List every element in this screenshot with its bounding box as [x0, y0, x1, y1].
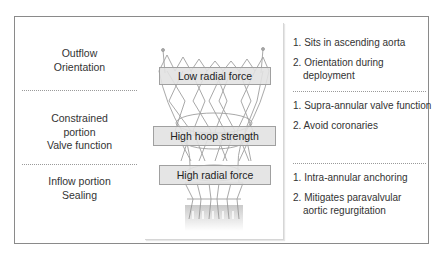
region-inflow-line1: Inflow portion	[22, 175, 137, 189]
function-item: 2. Mitigates paravalvular aortic regurgi…	[293, 191, 429, 217]
label-high-radial-force: High radial force	[159, 165, 271, 185]
region-constrained-line2: portion	[22, 126, 137, 140]
functions-inflow: 1. Intra-annular anchoring 2. Mitigates …	[293, 171, 429, 224]
label-high-hoop-strength: High hoop strength	[153, 126, 276, 146]
region-outflow-line1: Outflow	[22, 47, 137, 61]
region-constrained-line3: Valve function	[22, 139, 137, 153]
item-text: Sits in ascending aorta	[304, 37, 405, 48]
label-low-radial-force: Low radial force	[159, 67, 271, 85]
item-text: Avoid coronaries	[304, 120, 378, 131]
item-text: Intra-annular anchoring	[304, 172, 407, 183]
right-divider-2	[293, 163, 426, 164]
stent-image-panel: Low radial force High hoop strength High…	[145, 23, 284, 240]
item-number: 1.	[293, 172, 301, 183]
function-item: 2. Orientation during deployment	[293, 56, 429, 82]
region-inflow-line2: Sealing	[22, 189, 137, 203]
item-text: Supra-annular valve function	[304, 100, 431, 111]
function-item: 1. Intra-annular anchoring	[293, 171, 429, 184]
item-number: 2.	[293, 192, 301, 203]
right-divider-1	[293, 91, 426, 92]
item-text: Orientation during	[304, 57, 384, 68]
region-constrained: Constrained portion Valve function	[22, 112, 137, 153]
region-constrained-line1: Constrained	[22, 112, 137, 126]
functions-outflow: 1. Sits in ascending aorta 2. Orientatio…	[293, 36, 429, 89]
region-outflow: Outflow Orientation	[22, 47, 137, 74]
region-outflow-line2: Orientation	[22, 61, 137, 75]
diagram-frame: Outflow Orientation Constrained portion …	[14, 16, 429, 244]
function-item: 1. Supra-annular valve function	[293, 99, 429, 112]
left-divider-1	[22, 90, 137, 91]
function-item: 1. Sits in ascending aorta	[293, 36, 429, 49]
left-divider-2	[22, 164, 137, 165]
function-item: 2. Avoid coronaries	[293, 119, 429, 132]
item-number: 1.	[293, 37, 301, 48]
region-inflow: Inflow portion Sealing	[22, 175, 137, 202]
item-text-continued: aortic regurgitation	[293, 204, 429, 217]
item-number: 2.	[293, 57, 301, 68]
item-text-continued: deployment	[293, 69, 429, 82]
functions-constrained: 1. Supra-annular valve function 2. Avoid…	[293, 99, 429, 139]
item-number: 1.	[293, 100, 301, 111]
item-number: 2.	[293, 120, 301, 131]
item-text: Mitigates paravalvular	[304, 192, 401, 203]
